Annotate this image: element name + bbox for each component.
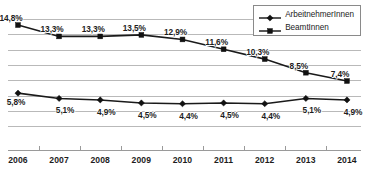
data-label: 4,9% <box>344 107 363 117</box>
data-label: 12,9% <box>164 27 187 37</box>
data-point-marker-square <box>221 47 226 52</box>
data-label: 5,1% <box>303 105 322 115</box>
data-point-marker-diamond <box>97 97 103 103</box>
x-axis-tick <box>121 146 122 150</box>
data-label: 8,5% <box>290 61 309 71</box>
x-axis-label: 2012 <box>255 155 275 165</box>
x-axis-label: 2007 <box>49 155 69 165</box>
data-point-marker-square <box>139 33 144 38</box>
legend-item[interactable]: ArbeitnehmerInnen <box>258 9 354 19</box>
data-point-marker-square <box>57 34 62 39</box>
data-label: 13,3% <box>82 24 105 34</box>
x-axis-tick <box>203 146 204 150</box>
data-point-marker-square <box>180 37 185 42</box>
data-label: 7,4% <box>331 69 350 79</box>
data-point-marker-diamond <box>56 95 62 101</box>
legend-label: BeamtInnen <box>285 23 329 32</box>
legend-label: ArbeitnehmerInnen <box>285 10 354 19</box>
data-point-marker-square <box>16 23 21 28</box>
x-axis-label: 2014 <box>337 155 357 165</box>
data-point-marker-square <box>303 70 308 75</box>
data-point-marker-diamond <box>221 100 227 106</box>
x-axis-label: 2010 <box>173 155 193 165</box>
data-point-marker-diamond <box>262 101 268 107</box>
legend-marker-diamond-icon <box>258 9 282 19</box>
x-axis-tick <box>162 146 163 150</box>
data-label: 14,8% <box>0 13 23 23</box>
data-label: 11,6% <box>205 37 228 47</box>
data-point-marker-square <box>268 29 273 34</box>
x-axis-label: 2011 <box>214 155 233 165</box>
legend-item[interactable]: BeamtInnen <box>258 22 354 32</box>
data-point-marker-square <box>345 79 350 84</box>
x-axis-line <box>8 150 361 151</box>
legend-marker-square-icon <box>258 22 282 32</box>
x-axis-label: 2009 <box>132 155 152 165</box>
data-label: 4,5% <box>220 110 239 120</box>
data-label: 4,4% <box>179 111 198 121</box>
x-axis-tick <box>244 146 245 150</box>
x-axis-tick <box>326 146 327 150</box>
data-label: 5,1% <box>56 105 75 115</box>
data-point-marker-diamond <box>138 100 144 106</box>
data-point-marker-diamond <box>267 15 273 21</box>
x-axis-label: 2008 <box>90 155 110 165</box>
data-point-marker-diamond <box>15 90 21 96</box>
data-label: 4,9% <box>97 107 116 117</box>
data-point-marker-square <box>98 34 103 39</box>
data-label: 13,5% <box>123 23 146 33</box>
data-label: 13,3% <box>41 24 64 34</box>
x-axis-label: 2006 <box>8 155 28 165</box>
data-label: 10,3% <box>246 47 269 57</box>
chart-root: 14,8%13,3%13,3%13,5%12,9%11,6%10,3%8,5%7… <box>0 0 365 174</box>
x-axis-tick <box>39 146 40 150</box>
data-point-marker-diamond <box>303 95 309 101</box>
data-point-marker-diamond <box>344 97 350 103</box>
chart-legend: ArbeitnehmerInnenBeamtInnen <box>253 5 361 36</box>
x-axis-tick <box>285 146 286 150</box>
data-point-marker-square <box>262 57 267 62</box>
data-label: 4,5% <box>138 110 157 120</box>
x-axis-label: 2013 <box>296 155 316 165</box>
x-axis-tick <box>80 146 81 150</box>
data-label: 5,8% <box>7 97 26 107</box>
data-label: 4,4% <box>261 111 280 121</box>
data-point-marker-diamond <box>179 101 185 107</box>
